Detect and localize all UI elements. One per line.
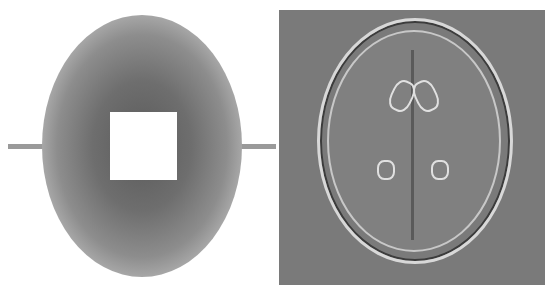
kspace-center-square — [110, 112, 177, 180]
kspace-mask-panel — [0, 0, 278, 295]
brain-midline — [411, 50, 414, 240]
brain-tissue — [327, 30, 501, 252]
right-thalamic-structure — [431, 160, 449, 180]
left-thalamic-structure — [377, 160, 395, 180]
brain-mri-panel — [279, 10, 545, 285]
